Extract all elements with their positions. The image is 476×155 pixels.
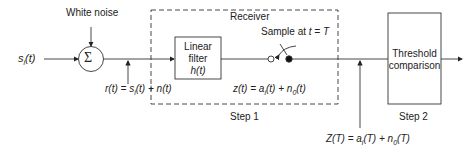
receiver-label: Receiver xyxy=(230,12,269,22)
block-diagram xyxy=(0,0,476,155)
r-equation: r(t) = si(t) + n(t) xyxy=(105,84,172,96)
sample-eq: t = T xyxy=(309,26,329,37)
switch-arc xyxy=(279,46,296,55)
z-equation: z(t) = ai(t) + n0(t) xyxy=(233,84,306,96)
sample-text: Sample at xyxy=(261,26,309,37)
input-signal-label: si(t) xyxy=(18,53,35,66)
filter-line3: h(t) xyxy=(175,65,221,77)
z-eq-b: (t) + n xyxy=(266,83,292,94)
Z-equation: Z(T) = ai(T) + n0(T) xyxy=(326,134,410,146)
input-arg: (t) xyxy=(25,52,35,64)
Z-eq-a: Z(T) = a xyxy=(326,133,362,144)
filter-line2: filter xyxy=(175,53,221,65)
threshold-line2: comparison xyxy=(388,60,441,72)
filter-line1: Linear xyxy=(175,41,221,53)
z-eq-a: z(t) = a xyxy=(233,83,264,94)
Z-eq-b: (T) + n xyxy=(363,133,393,144)
step1-label: Step 1 xyxy=(230,112,259,122)
z-eq-c: (t) xyxy=(296,83,305,94)
sum-symbol: Σ xyxy=(84,51,92,65)
step2-label: Step 2 xyxy=(399,112,428,122)
switch-open-contact xyxy=(268,56,274,62)
threshold-label: Threshold comparison xyxy=(388,48,441,72)
linear-filter-label: Linear filter h(t) xyxy=(175,41,221,77)
sample-label: Sample at t = T xyxy=(261,27,329,37)
white-noise-label: White noise xyxy=(66,8,118,18)
switch-closed-contact xyxy=(286,56,292,62)
r-eq-b: (t) + n(t) xyxy=(136,83,172,94)
r-eq-a: r(t) = s xyxy=(105,83,134,94)
Z-eq-c: (T) xyxy=(397,133,410,144)
switch-arm xyxy=(280,44,287,55)
threshold-line1: Threshold xyxy=(388,48,441,60)
